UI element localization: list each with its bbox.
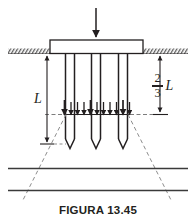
ground-hatch-right (143, 49, 188, 54)
figure-container: L 2 3 L FIGURA 13.45 (0, 0, 196, 223)
stress-spread-lines (22, 115, 172, 203)
pile-group-diagram (0, 0, 196, 223)
ground-hatch-left (8, 49, 50, 54)
figure-caption: FIGURA 13.45 (0, 204, 196, 216)
pile (66, 54, 75, 149)
pile (92, 54, 101, 149)
pile-group (66, 54, 128, 149)
equivalent-depth-unit-label: L (166, 78, 174, 94)
dimension-line-L (40, 56, 66, 144)
fraction-denominator: 3 (154, 87, 160, 100)
embedment-depth-label: L (34, 92, 42, 106)
fraction-two-thirds: 2 3 (152, 72, 163, 100)
fraction-numerator: 2 (154, 72, 160, 85)
equivalent-depth-label: 2 3 L (152, 72, 173, 100)
pile-cap (50, 40, 143, 54)
